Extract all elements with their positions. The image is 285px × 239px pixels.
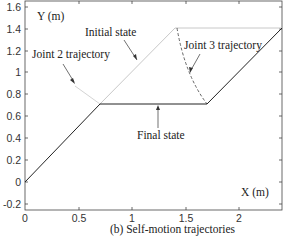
joint2-trajectory-line	[75, 86, 100, 104]
y-axis-label: Y (m)	[37, 10, 65, 23]
svg-text:-0.2: -0.2	[3, 198, 21, 210]
svg-text:1.2: 1.2	[6, 45, 21, 57]
svg-text:1: 1	[15, 66, 21, 78]
y-ticks	[25, 7, 282, 204]
annotation-joint2: Joint 2 trajectory	[32, 48, 110, 61]
annotation-initial-state: Initial state	[85, 26, 136, 38]
svg-text:1.4: 1.4	[6, 23, 21, 35]
svg-text:1.6: 1.6	[6, 1, 21, 13]
svg-text:0.2: 0.2	[6, 154, 21, 166]
chart: -0.2 0 0.2 0.4 0.6 0.8 1 1.2 1.4 1.6 0 0…	[0, 0, 285, 239]
y-tick-labels: -0.2 0 0.2 0.4 0.6 0.8 1 1.2 1.4 1.6	[3, 1, 21, 210]
svg-text:0.4: 0.4	[6, 132, 21, 144]
annotation-final-state: Final state	[137, 129, 185, 141]
annotation-joint3: Joint 3 trajectory	[184, 39, 262, 52]
svg-text:0.8: 0.8	[6, 88, 21, 100]
figure-caption: (b) Self-motion trajectories	[0, 223, 285, 235]
svg-text:0.6: 0.6	[6, 110, 21, 122]
x-axis-label: X (m)	[241, 186, 269, 199]
axes-box	[25, 1, 282, 210]
svg-text:0: 0	[15, 176, 21, 188]
